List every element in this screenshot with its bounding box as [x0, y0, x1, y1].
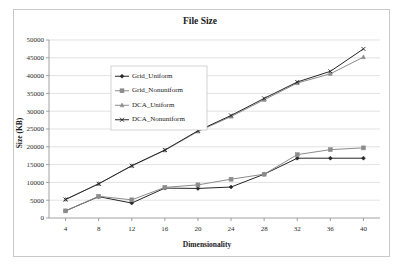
y-tick-label: 0: [41, 214, 45, 222]
x-tick-label: 12: [128, 225, 136, 233]
y-tick-label: 50000: [27, 36, 45, 44]
gridlines: [49, 40, 380, 200]
x-tick-label: 8: [97, 225, 101, 233]
x-tick-label: 16: [161, 225, 169, 233]
data-point-marker-square: [328, 148, 332, 152]
chart-canvas: File Size 050001000015000200002500030000…: [0, 0, 401, 266]
chart-title: File Size: [183, 16, 217, 26]
y-tick-label: 5000: [30, 197, 45, 205]
data-point-marker-diamond: [229, 185, 233, 189]
y-axis-label: Size (KB): [15, 117, 24, 148]
data-point-marker-square: [130, 198, 134, 202]
x-axis-ticks: 481216202428323640: [64, 218, 368, 233]
data-point-marker-square: [120, 89, 124, 93]
chart-legend: Grid_UniformGrid_NonuniformDCA_UniformDC…: [111, 66, 207, 130]
y-tick-label: 15000: [27, 161, 45, 169]
x-tick-label: 20: [194, 225, 202, 233]
data-point-marker-square: [196, 183, 200, 187]
legend-label: DCA_Nonuniform: [132, 115, 185, 123]
y-tick-label: 20000: [27, 143, 45, 151]
y-tick-label: 25000: [27, 125, 45, 133]
x-tick-label: 40: [360, 225, 368, 233]
x-tick-label: 28: [261, 225, 269, 233]
series-line: [66, 57, 364, 199]
data-point-marker-cross: [361, 47, 365, 51]
series-dca-uniform: [64, 55, 366, 201]
data-point-marker-square: [361, 146, 365, 150]
data-point-marker-square: [295, 153, 299, 157]
data-point-marker-square: [97, 194, 101, 198]
data-point-marker-diamond: [328, 156, 332, 160]
data-point-marker-square: [229, 177, 233, 181]
series-grid-nonuniform: [64, 146, 366, 213]
y-tick-label: 40000: [27, 72, 45, 80]
x-axis-label: Dimensionality: [183, 240, 232, 249]
x-tick-label: 32: [294, 225, 302, 233]
data-point-marker-square: [64, 209, 68, 213]
data-point-marker-square: [163, 185, 167, 189]
data-point-marker-diamond: [361, 156, 365, 160]
legend-label: Grid_Uniform: [132, 72, 173, 80]
data-series: [64, 47, 366, 213]
y-tick-label: 45000: [27, 54, 45, 62]
x-tick-label: 36: [327, 225, 335, 233]
series-line: [66, 148, 364, 211]
x-tick-label: 24: [228, 225, 236, 233]
legend-label: DCA_Uniform: [132, 101, 175, 109]
legend-label: Grid_Nonuniform: [132, 86, 183, 94]
y-axis-ticks: 0500010000150002000025000300003500040000…: [27, 36, 50, 222]
data-point-marker-square: [262, 172, 266, 176]
series-line: [66, 158, 364, 211]
y-tick-label: 35000: [27, 90, 45, 98]
x-tick-label: 4: [64, 225, 68, 233]
file-size-chart: File Size 050001000015000200002500030000…: [0, 0, 401, 266]
y-tick-label: 10000: [27, 179, 45, 187]
y-tick-label: 30000: [27, 108, 45, 116]
data-point-marker-triangle: [361, 55, 365, 59]
